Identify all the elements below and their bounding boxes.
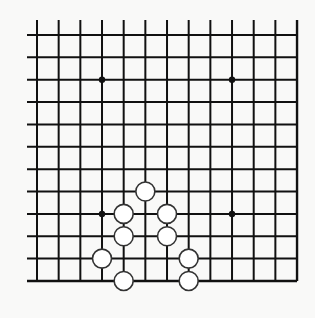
white-stone[interactable] — [179, 271, 198, 290]
white-stone[interactable] — [93, 249, 112, 268]
star-point-icon — [99, 77, 105, 83]
white-stone[interactable] — [158, 227, 177, 246]
star-point-icon — [229, 211, 235, 217]
white-stone[interactable] — [158, 204, 177, 223]
white-stone[interactable] — [114, 227, 133, 246]
white-stone[interactable] — [114, 271, 133, 290]
white-stone[interactable] — [136, 182, 155, 201]
go-board — [0, 0, 315, 318]
star-point-icon — [99, 211, 105, 217]
star-point-icon — [229, 77, 235, 83]
white-stone[interactable] — [114, 204, 133, 223]
white-stone[interactable] — [179, 249, 198, 268]
